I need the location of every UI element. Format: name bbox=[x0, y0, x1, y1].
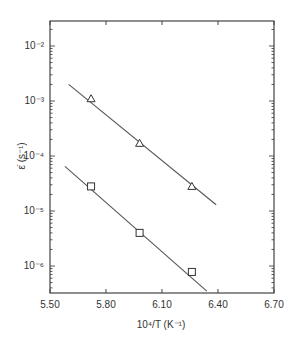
triangle-marker bbox=[188, 182, 196, 189]
series-squares bbox=[65, 166, 207, 291]
x-axis-ticks: 5.505.806.106.406.70 bbox=[40, 21, 284, 310]
square-marker bbox=[136, 229, 143, 236]
y-tick-label: 10⁻² bbox=[25, 40, 45, 51]
y-axis-label: ε̇ (s⁻¹) bbox=[16, 142, 27, 169]
y-tick-label: 10⁻⁵ bbox=[24, 205, 44, 216]
x-tick-label: 6.10 bbox=[152, 299, 172, 310]
chart: 5.505.806.106.406.70 10⁻²10⁻³10⁻⁴10⁻⁵10⁻… bbox=[0, 0, 298, 344]
y-tick-label: 10⁻⁶ bbox=[24, 260, 44, 271]
square-marker bbox=[88, 183, 95, 190]
y-tick-label: 10⁻³ bbox=[25, 95, 45, 106]
y-axis-ticks: 10⁻²10⁻³10⁻⁴10⁻⁵10⁻⁶ bbox=[24, 29, 274, 287]
square-marker bbox=[188, 268, 195, 275]
x-tick-label: 6.40 bbox=[208, 299, 228, 310]
x-tick-label: 6.70 bbox=[264, 299, 284, 310]
triangle-marker bbox=[87, 95, 95, 102]
data-series bbox=[65, 84, 216, 291]
x-axis-label: 10⁴/T (K⁻¹) bbox=[137, 319, 186, 330]
fit-line bbox=[65, 166, 207, 291]
x-tick-label: 5.50 bbox=[40, 299, 60, 310]
x-tick-label: 5.80 bbox=[96, 299, 116, 310]
